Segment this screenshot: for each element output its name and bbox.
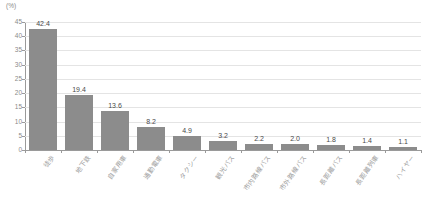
bar-slot: 1.4 [349, 22, 385, 150]
bar[interactable] [65, 95, 92, 150]
bar-slot: 4.9 [169, 22, 205, 150]
x-axis-category-label: 市外路線バス [279, 154, 308, 192]
bar-value-label: 1.8 [326, 136, 336, 143]
x-axis-category-label: タクシー [179, 154, 200, 181]
x-axis-category-label: 通勤電車 [143, 154, 164, 181]
x-axis-category-labels: 徒歩地下鉄自家用車通勤電車タクシー観光バス市内路線バス市外路線バス長距離バス長距… [25, 154, 421, 198]
y-axis-tick-mark [22, 22, 25, 23]
x-axis-tick-mark [25, 150, 26, 153]
y-axis-tick-label: 10 [2, 119, 22, 126]
bar-slot: 8.2 [133, 22, 169, 150]
y-axis-tick-label: 0 [2, 147, 22, 154]
x-axis-tick-mark [61, 150, 62, 153]
x-axis-tick-mark [205, 150, 206, 153]
y-axis-tick-mark [22, 79, 25, 80]
bar[interactable] [101, 111, 128, 150]
bar-series: 42.419.413.68.24.93.22.22.01.81.41.1 [25, 22, 421, 150]
x-axis-category-label: 長距離バス [319, 154, 344, 186]
y-axis-tick-label: 30 [2, 62, 22, 69]
bar-slot: 13.6 [97, 22, 133, 150]
bar[interactable] [29, 29, 56, 150]
bar[interactable] [173, 136, 200, 150]
bar-slot: 1.1 [385, 22, 421, 150]
bar-value-label: 42.4 [36, 20, 50, 27]
y-axis-tick-label: 20 [2, 90, 22, 97]
bar-chart: (%) 454035302520151050 42.419.413.68.24.… [0, 0, 425, 198]
x-axis-category-label: 徒歩 [43, 154, 56, 169]
y-axis-tick-labels: 454035302520151050 [0, 22, 22, 150]
y-axis-tick-mark [22, 136, 25, 137]
y-axis-tick-mark [22, 122, 25, 123]
bar-value-label: 4.9 [182, 127, 192, 134]
x-axis-tick-mark [97, 150, 98, 153]
bar-slot: 3.2 [205, 22, 241, 150]
y-axis-tick-label: 15 [2, 104, 22, 111]
y-axis-tick-mark [22, 150, 25, 151]
x-axis-tick-mark [169, 150, 170, 153]
y-axis-tick-mark [22, 65, 25, 66]
bar-value-label: 3.2 [218, 132, 228, 139]
x-axis-category-label: 観光バス [215, 154, 236, 181]
bar-value-label: 13.6 [108, 102, 122, 109]
y-axis-tick-mark [22, 107, 25, 108]
bar-slot: 1.8 [313, 22, 349, 150]
x-axis-tick-mark [313, 150, 314, 153]
x-axis-tick-mark [385, 150, 386, 153]
bar-slot: 19.4 [61, 22, 97, 150]
x-axis-category-label: 自家用車 [107, 154, 128, 181]
bar-slot: 2.2 [241, 22, 277, 150]
x-axis-category-label: 地下鉄 [75, 154, 92, 175]
axis-unit-label: (%) [6, 2, 16, 9]
x-axis-tick-mark [241, 150, 242, 153]
bar-value-label: 2.2 [254, 135, 264, 142]
bar[interactable] [137, 127, 164, 150]
y-axis-tick-mark [22, 36, 25, 37]
y-axis-tick-label: 40 [2, 33, 22, 40]
bar-value-label: 2.0 [290, 135, 300, 142]
y-axis-tick-mark [22, 93, 25, 94]
x-axis-tick-mark [133, 150, 134, 153]
bar-value-label: 1.4 [362, 137, 372, 144]
bar-slot: 42.4 [25, 22, 61, 150]
bar-slot: 2.0 [277, 22, 313, 150]
bar[interactable] [209, 141, 236, 150]
x-axis-tick-mark [277, 150, 278, 153]
x-axis-category-label: ハイヤー [395, 154, 416, 181]
bar-value-label: 19.4 [72, 86, 86, 93]
bar-value-label: 8.2 [146, 118, 156, 125]
x-axis-tick-mark [421, 150, 422, 153]
y-axis-tick-label: 35 [2, 47, 22, 54]
y-axis-tick-label: 25 [2, 76, 22, 83]
y-axis-tick-label: 5 [2, 133, 22, 140]
y-axis-tick-label: 45 [2, 19, 22, 26]
x-axis-category-label: 市内路線バス [243, 154, 272, 192]
bar-value-label: 1.1 [398, 138, 408, 145]
x-axis-category-label: 長距離列車 [355, 154, 380, 186]
x-axis-tick-mark [349, 150, 350, 153]
y-axis-tick-mark [22, 50, 25, 51]
